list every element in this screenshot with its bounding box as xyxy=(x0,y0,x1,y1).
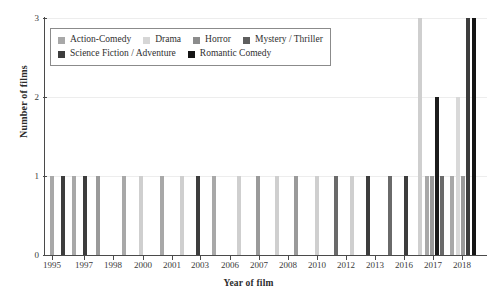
bar xyxy=(350,176,354,255)
legend-item[interactable]: Romantic Comedy xyxy=(188,49,272,59)
bar xyxy=(96,176,100,255)
y-axis-title: Number of films xyxy=(18,37,29,167)
bar xyxy=(139,176,143,255)
x-axis-line xyxy=(44,255,487,256)
bar xyxy=(212,176,216,255)
bar xyxy=(275,176,279,255)
x-tick-label: 2003 xyxy=(191,260,209,270)
y-tick-label: 2 xyxy=(35,93,40,102)
bar xyxy=(435,97,439,255)
x-tick-label: 2016 xyxy=(395,260,413,270)
legend-row: Action-ComedyDramaHorrorMystery / Thrill… xyxy=(58,33,323,47)
bar xyxy=(388,176,392,255)
x-tick-label: 2010 xyxy=(308,260,326,270)
legend-item[interactable]: Science Fiction / Adventure xyxy=(58,49,176,59)
x-tick-label: 1998 xyxy=(104,260,122,270)
bar xyxy=(366,176,370,255)
bar xyxy=(450,176,454,255)
bar xyxy=(61,176,65,255)
legend-label: Action-Comedy xyxy=(70,35,131,45)
x-tick-label: 2007 xyxy=(250,260,268,270)
legend-label: Drama xyxy=(155,35,181,45)
x-tick-label: 1995 xyxy=(43,260,61,270)
bar xyxy=(237,176,241,255)
legend-swatch-icon xyxy=(58,51,65,58)
y-tick xyxy=(43,97,47,98)
x-tick-label: 2017 xyxy=(424,260,442,270)
legend-item[interactable]: Action-Comedy xyxy=(58,35,131,45)
legend-label: Science Fiction / Adventure xyxy=(70,49,176,59)
bar xyxy=(472,18,476,255)
x-axis-title: Year of film xyxy=(0,278,497,288)
bar xyxy=(430,176,434,255)
bar xyxy=(456,97,460,255)
y-tick-label: 3 xyxy=(35,14,40,23)
bar xyxy=(50,176,54,255)
legend-row: Science Fiction / AdventureRomantic Come… xyxy=(58,47,323,61)
legend-item[interactable]: Horror xyxy=(193,35,231,45)
bar xyxy=(315,176,319,255)
x-tick-label: 2000 xyxy=(134,260,152,270)
bar xyxy=(425,176,429,255)
legend-swatch-icon xyxy=(188,51,195,58)
legend-swatch-icon xyxy=(58,37,65,44)
x-tick-label: 2013 xyxy=(366,260,384,270)
x-tick-label: 2001 xyxy=(163,260,181,270)
bar xyxy=(294,176,298,255)
y-axis-line xyxy=(44,17,45,256)
bar xyxy=(72,176,76,255)
bar xyxy=(334,176,338,255)
bar xyxy=(180,176,184,255)
legend-swatch-icon xyxy=(193,37,200,44)
bar xyxy=(256,176,260,255)
bar xyxy=(404,176,408,255)
bar xyxy=(83,176,87,255)
legend-label: Horror xyxy=(205,35,231,45)
legend-item[interactable]: Mystery / Thriller xyxy=(243,35,323,45)
y-tick xyxy=(43,176,47,177)
bar xyxy=(466,18,470,255)
x-tick-label: 2018 xyxy=(453,260,471,270)
legend-label: Romantic Comedy xyxy=(200,49,272,59)
bar xyxy=(122,176,126,255)
x-tick-label: 1997 xyxy=(75,260,93,270)
legend-item[interactable]: Drama xyxy=(143,35,181,45)
y-tick xyxy=(43,18,47,19)
legend-swatch-icon xyxy=(143,37,150,44)
y-tick-label: 1 xyxy=(35,172,40,181)
bar xyxy=(196,176,200,255)
legend-label: Mystery / Thriller xyxy=(255,35,323,45)
bar xyxy=(418,18,422,255)
chart-figure: Number of films Year of film 0123 199519… xyxy=(0,0,497,298)
bar xyxy=(461,176,465,255)
x-tick-label: 2008 xyxy=(279,260,297,270)
legend-swatch-icon xyxy=(243,37,250,44)
bar xyxy=(440,176,444,255)
chart-legend: Action-ComedyDramaHorrorMystery / Thrill… xyxy=(50,28,331,66)
x-tick-label: 2006 xyxy=(221,260,239,270)
x-tick-label: 2012 xyxy=(337,260,355,270)
bar xyxy=(160,176,164,255)
y-tick xyxy=(43,255,47,256)
y-tick-label: 0 xyxy=(35,251,40,260)
